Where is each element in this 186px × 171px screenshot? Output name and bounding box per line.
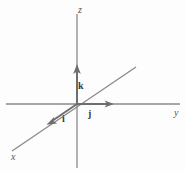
axis-label-z: z — [78, 5, 82, 15]
axis-label-x: x — [11, 152, 15, 162]
vector-diagram-figure: z y x k i j — [0, 0, 186, 171]
vector-label-k: k — [78, 81, 84, 91]
axis-line-x — [12, 67, 136, 151]
axes-svg — [0, 0, 186, 171]
axis-label-y: y — [174, 108, 178, 118]
vector-j — [77, 100, 114, 107]
vector-label-j: j — [88, 109, 91, 119]
vector-label-i: i — [62, 114, 65, 124]
